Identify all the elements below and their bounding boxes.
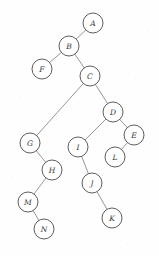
graph-edge-j-k <box>97 192 107 210</box>
graph-edge-h-m <box>34 178 46 194</box>
node-label-e: E <box>130 131 137 140</box>
node-label-a: A <box>89 19 96 28</box>
graph-edge-d-e <box>120 119 128 127</box>
nodes-layer: ABFCDEGILHJMKN <box>18 13 144 239</box>
graph-node-j[interactable]: J <box>82 173 102 193</box>
node-label-l: L <box>111 153 117 162</box>
scan-speck <box>57 112 58 113</box>
graph-node-g[interactable]: G <box>20 133 40 153</box>
node-label-g: G <box>27 139 33 148</box>
graph-edge-i-j <box>82 156 89 173</box>
node-label-b: B <box>65 42 72 51</box>
graph-diagram: ABFCDEGILHJMKN <box>0 0 159 256</box>
graph-edge-c-g <box>37 83 84 135</box>
graph-node-f[interactable]: F <box>32 59 52 79</box>
graph-node-b[interactable]: B <box>59 36 79 56</box>
graph-node-n[interactable]: N <box>34 219 54 239</box>
graph-edge-c-d <box>95 84 107 103</box>
node-label-n: N <box>40 225 48 234</box>
node-label-h: H <box>48 166 56 175</box>
node-label-m: M <box>23 198 32 207</box>
graph-node-i[interactable]: I <box>68 137 88 157</box>
graph-edge-d-i <box>85 119 106 140</box>
scan-speck <box>127 243 128 244</box>
graph-edge-b-f <box>50 52 62 62</box>
graph-node-e[interactable]: E <box>124 125 144 145</box>
graph-node-c[interactable]: C <box>80 66 100 86</box>
edges-layer <box>33 30 127 220</box>
graph-node-h[interactable]: H <box>42 160 62 180</box>
scan-speck <box>135 78 136 79</box>
graph-node-a[interactable]: A <box>83 13 103 33</box>
node-label-c: C <box>87 72 93 81</box>
node-label-d: D <box>109 108 116 117</box>
graph-edge-e-l <box>122 143 128 150</box>
scan-speck <box>150 35 151 36</box>
graph-node-d[interactable]: D <box>103 102 123 122</box>
node-label-f: F <box>38 65 45 74</box>
graph-node-k[interactable]: K <box>102 208 122 228</box>
graph-node-l[interactable]: L <box>105 147 125 167</box>
graph-edge-m-n <box>33 211 39 221</box>
graph-edge-a-b <box>76 30 86 39</box>
graph-figure-canvas: ABFCDEGILHJMKN <box>0 0 159 256</box>
graph-edge-b-c <box>75 54 85 68</box>
graph-node-m[interactable]: M <box>18 192 38 212</box>
graph-edge-g-h <box>36 151 45 163</box>
